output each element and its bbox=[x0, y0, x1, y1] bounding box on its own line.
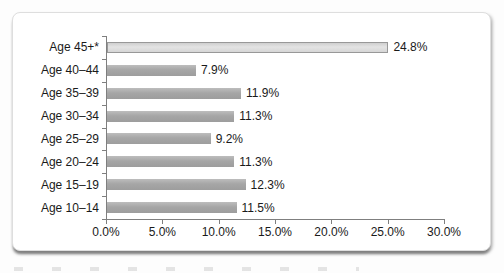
x-axis-tick-label: 5.0% bbox=[149, 225, 176, 239]
y-axis-tick bbox=[102, 150, 106, 151]
y-axis-category-labels: Age 45+*Age 40–44Age 35–39Age 30–34Age 2… bbox=[13, 36, 99, 219]
bar-row: 12.3% bbox=[107, 173, 445, 196]
bar-value-label: 11.3% bbox=[239, 109, 272, 123]
x-axis-tick bbox=[444, 220, 445, 224]
bar-value-label: 12.3% bbox=[251, 178, 285, 192]
x-axis-tick-label: 0.0% bbox=[92, 225, 119, 239]
y-axis-tick bbox=[102, 173, 106, 174]
x-axis-tick-label: 10.0% bbox=[202, 225, 236, 239]
x-axis-tick-label: 25.0% bbox=[371, 225, 405, 239]
category-label: Age 40–44 bbox=[13, 59, 99, 82]
screenshot-canvas: Age 45+*Age 40–44Age 35–39Age 30–34Age 2… bbox=[0, 0, 504, 273]
bar-row: 11.9% bbox=[107, 82, 445, 105]
category-label: Age 10–14 bbox=[13, 196, 99, 219]
category-label: Age 15–19 bbox=[13, 173, 99, 196]
x-axis-tick-label: 30.0% bbox=[427, 225, 461, 239]
bar bbox=[107, 65, 196, 76]
y-axis-tick bbox=[102, 105, 106, 106]
y-axis-tick bbox=[102, 219, 106, 220]
x-axis-tick bbox=[388, 220, 389, 224]
x-axis-tick-label: 15.0% bbox=[258, 225, 292, 239]
category-label: Age 45+* bbox=[13, 36, 99, 59]
category-label: Age 20–24 bbox=[13, 150, 99, 173]
x-axis-tick-label: 20.0% bbox=[314, 225, 348, 239]
bar-value-label: 11.3% bbox=[239, 155, 272, 169]
bar-row: 11.3% bbox=[107, 150, 445, 173]
bar-value-label: 24.8% bbox=[393, 40, 427, 54]
y-axis-tick bbox=[102, 196, 106, 197]
bar bbox=[107, 202, 237, 213]
category-label: Age 35–39 bbox=[13, 82, 99, 105]
x-axis-tick bbox=[162, 220, 163, 224]
bar-row: 24.8% bbox=[107, 36, 445, 59]
bar-row: 9.2% bbox=[107, 128, 445, 151]
bar-row: 11.5% bbox=[107, 196, 445, 219]
y-axis-tick bbox=[102, 82, 106, 83]
chart-panel: Age 45+*Age 40–44Age 35–39Age 30–34Age 2… bbox=[12, 12, 491, 251]
y-axis-tick bbox=[102, 36, 106, 37]
y-axis-tick bbox=[102, 128, 106, 129]
bar-value-label: 11.9% bbox=[246, 86, 279, 100]
bar-row: 7.9% bbox=[107, 59, 445, 82]
y-axis-tick bbox=[102, 59, 106, 60]
x-axis-tick bbox=[275, 220, 276, 224]
x-axis-tick bbox=[106, 220, 107, 224]
category-label: Age 30–34 bbox=[13, 105, 99, 128]
highlighted-bar bbox=[107, 42, 388, 53]
bar-row: 11.3% bbox=[107, 105, 445, 128]
x-axis-tick bbox=[331, 220, 332, 224]
bar bbox=[107, 88, 241, 99]
cropped-caption-fragment bbox=[14, 267, 359, 271]
bar bbox=[107, 133, 211, 144]
bar bbox=[107, 111, 234, 122]
plot-area: 24.8%7.9%11.9%11.3%9.2%11.3%12.3%11.5% bbox=[107, 36, 445, 219]
x-axis-tick bbox=[219, 220, 220, 224]
bar-value-label: 9.2% bbox=[216, 132, 243, 146]
bar-value-label: 11.5% bbox=[242, 201, 275, 215]
bar bbox=[107, 179, 246, 190]
bar-value-label: 7.9% bbox=[201, 63, 228, 77]
bar bbox=[107, 156, 234, 167]
category-label: Age 25–29 bbox=[13, 128, 99, 151]
